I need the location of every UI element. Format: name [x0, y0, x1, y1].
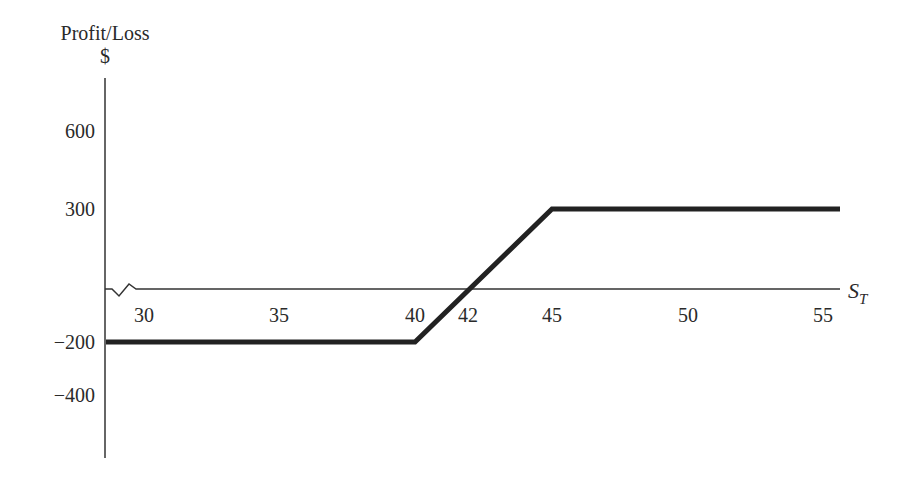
y-tick-label: −400	[54, 384, 95, 406]
x-tick-label: 42	[458, 304, 478, 326]
y-tick-label: 600	[65, 120, 95, 142]
y-tick-label: −200	[54, 331, 95, 353]
x-axis-title: ST	[848, 278, 869, 307]
x-tick-label: 55	[813, 304, 833, 326]
x-tick-label: 45	[542, 304, 562, 326]
y-axis-title: Profit/Loss	[61, 22, 150, 44]
x-tick-label: 40	[405, 304, 425, 326]
x-tick-label: 50	[678, 304, 698, 326]
y-axis-unit: $	[100, 45, 110, 67]
payoff-chart: Profit/Loss $ 600 300 −200 −400 30 35 40…	[0, 0, 919, 482]
y-tick-label: 300	[65, 198, 95, 220]
x-tick-label: 35	[269, 304, 289, 326]
x-tick-label: 30	[134, 304, 154, 326]
